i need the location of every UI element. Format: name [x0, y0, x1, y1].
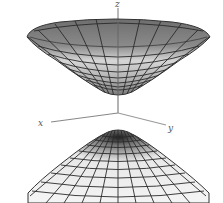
z-axis-label: z	[114, 0, 120, 9]
x-axis-label: x	[38, 118, 43, 128]
x-axis	[51, 113, 118, 122]
y-axis-label: y	[167, 123, 174, 133]
hyperboloid-figure: z x y	[0, 0, 223, 203]
y-axis	[118, 113, 166, 125]
lower-sheet	[28, 130, 209, 203]
